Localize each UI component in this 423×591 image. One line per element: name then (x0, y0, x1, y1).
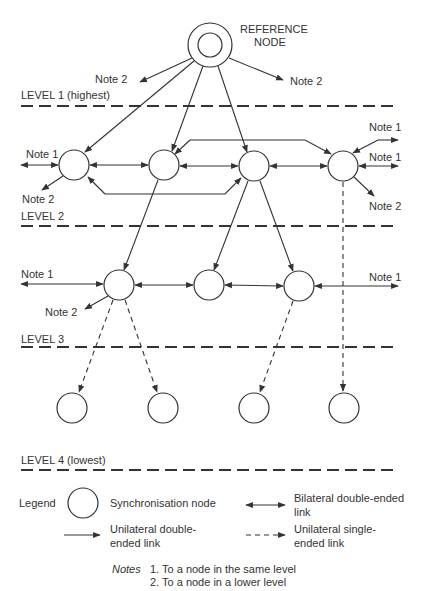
level-2-label: LEVEL 2 (21, 210, 64, 222)
legend-unilateral-single-label-1: Unilateral single- (294, 523, 376, 535)
note2-label-ref-left: Note 2 (95, 73, 127, 85)
note-item-2: 2. To a node in a lower level (150, 576, 286, 588)
note-item-1: 1. To a node in the same level (150, 563, 296, 575)
note1-label-l2-left: Note 1 (21, 268, 53, 280)
note2-label-l1-right: Note 2 (369, 200, 401, 212)
level-4-label: LEVEL 4 (lowest) (21, 454, 106, 466)
level-3-label: LEVEL 3 (21, 333, 64, 345)
level-3-nodes (57, 393, 359, 423)
legend-bilateral-label-2: link (294, 506, 311, 518)
note2-label-ref-right: Note 2 (290, 75, 322, 87)
synchronisation-hierarchy-diagram: REFERENCE NODE Note 2 Note 2 LEVEL 1 (hi… (0, 0, 423, 591)
note1-label-l1-right-top: Note 1 (369, 121, 401, 133)
legend-unilateral-double-label-1: Unilateral double- (110, 523, 197, 535)
legend-sync-node-label: Synchronisation node (110, 497, 216, 509)
legend: Legend Synchronisation node Bilateral do… (19, 488, 404, 549)
reference-node (188, 23, 232, 67)
note2-label-l2-left: Note 2 (45, 306, 77, 318)
legend-sync-node-icon (68, 488, 98, 518)
notes-title: Notes (112, 563, 141, 575)
legend-title: Legend (19, 497, 56, 509)
note1-label-l2-right: Note 1 (369, 271, 401, 283)
note1-label-l1-right: Note 1 (369, 151, 401, 163)
legend-unilateral-double-label-2: ended link (110, 537, 161, 549)
note2-label-l1-left: Note 2 (22, 193, 54, 205)
note1-label-l1-left: Note 1 (26, 148, 58, 160)
reference-node-label-1: REFERENCE (240, 23, 308, 35)
legend-unilateral-single-label-2: ended link (294, 537, 345, 549)
level-1-label: LEVEL 1 (highest) (21, 89, 110, 101)
reference-node-label-2: NODE (254, 36, 286, 48)
notes: Notes 1. To a node in the same level 2. … (112, 563, 296, 588)
legend-bilateral-label-1: Bilateral double-ended (294, 492, 404, 504)
